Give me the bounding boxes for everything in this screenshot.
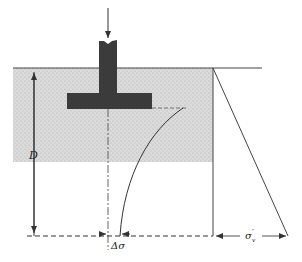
- stress-increase-label: Δσ: [110, 240, 126, 251]
- svg-text:′: ′: [252, 227, 254, 236]
- effective-stress-label: σ ′ v: [245, 227, 256, 243]
- depth-label: D: [28, 149, 38, 162]
- footing-stress-diagram: D Δσ σ ′ v: [0, 0, 302, 262]
- footing: [67, 93, 152, 109]
- column: [99, 40, 117, 94]
- effective-stress-profile: [213, 68, 288, 236]
- svg-text:v: v: [252, 236, 256, 243]
